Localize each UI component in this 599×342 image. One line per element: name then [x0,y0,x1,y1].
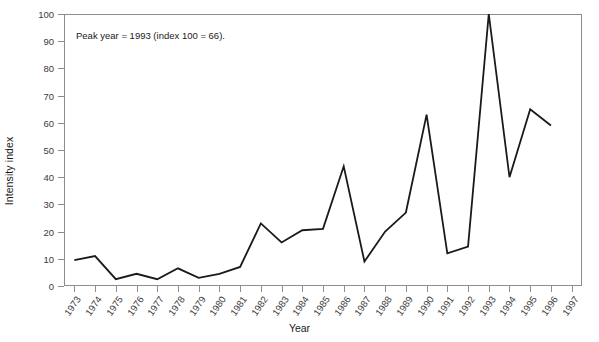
y-tick-label: 10 [43,253,54,264]
y-tick-label: 100 [38,9,54,20]
x-tick-mark [137,286,138,292]
x-tick-mark [74,286,75,292]
y-tick-label: 0 [49,281,54,292]
x-tick-mark [240,286,241,292]
x-tick-mark [406,286,407,292]
x-tick-mark [489,286,490,292]
line-chart: Intensity index 0102030405060708090100 1… [0,0,599,342]
x-tick-mark [468,286,469,292]
y-tick-label: 40 [43,172,54,183]
x-tick-mark [385,286,386,292]
x-tick-mark [530,286,531,292]
y-tick-label: 80 [43,63,54,74]
x-tick-mark [302,286,303,292]
x-tick-mark [261,286,262,292]
x-axis-title: Year [0,322,599,334]
x-tick-mark [219,286,220,292]
y-tick-label: 60 [43,117,54,128]
data-series-line [64,14,582,286]
x-tick-mark [178,286,179,292]
x-tick-mark [509,286,510,292]
y-tick-label: 90 [43,36,54,47]
x-tick-mark [364,286,365,292]
y-tick-label: 70 [43,90,54,101]
x-tick-mark [427,286,428,292]
x-tick-mark [95,286,96,292]
y-tick-mark [58,286,64,287]
x-tick-mark [199,286,200,292]
y-tick-label: 20 [43,226,54,237]
x-tick-mark [344,286,345,292]
x-tick-mark [157,286,158,292]
y-tick-label: 50 [43,145,54,156]
x-tick-mark [116,286,117,292]
x-tick-mark [282,286,283,292]
x-tick-mark [447,286,448,292]
x-tick-mark [551,286,552,292]
y-tick-label: 30 [43,199,54,210]
peak-year-annotation: Peak year = 1993 (index 100 = 66). [76,30,225,41]
x-tick-mark [323,286,324,292]
x-tick-mark [572,286,573,292]
